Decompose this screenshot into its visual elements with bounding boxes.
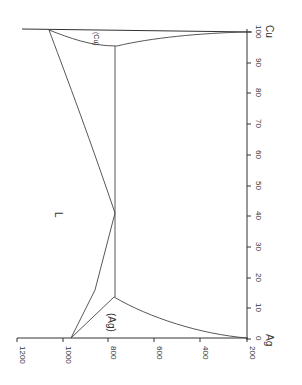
tick-label-90: 90: [254, 58, 263, 67]
tick-label-40: 40: [254, 211, 263, 220]
composition-ticks: [247, 32, 251, 339]
tick-label-0: 0: [254, 336, 263, 341]
cu-solvus-curve: [117, 32, 247, 46]
cu-liquidus-curve: [49, 30, 115, 213]
ag-solvus-curve: [114, 297, 247, 338]
tick-label-60: 60: [254, 150, 263, 159]
tick-label-50: 50: [254, 181, 263, 190]
cu-solidus-curve: [49, 30, 117, 46]
tick-label-20: 20: [254, 273, 263, 282]
region-label-liquid: L: [53, 212, 64, 218]
tick-label-600: 600: [155, 346, 164, 360]
region-label-ag-phase: (Ag): [106, 313, 117, 332]
tick-label-800: 800: [109, 346, 118, 360]
temperature-tick-labels: 1200 1000 800 600 400 200: [18, 346, 257, 364]
axis-label-cu: Cu: [264, 25, 275, 38]
axis-label-ag: Ag: [264, 334, 275, 346]
temperature-ticks: [17, 338, 247, 342]
phase-diagram: 1200 1000 800 600 400 200 0 10 20 30 40 …: [0, 0, 302, 385]
tick-label-70: 70: [254, 119, 263, 128]
tick-label-100: 100: [254, 25, 263, 39]
composition-tick-labels: 0 10 20 30 40 50 60 70 80 90 100: [254, 25, 263, 341]
tick-label-1200: 1200: [18, 346, 27, 364]
tick-label-200: 200: [248, 346, 257, 360]
tick-label-30: 30: [254, 242, 263, 251]
tick-label-10: 10: [254, 303, 263, 312]
region-label-cu-phase: (Cu): [92, 32, 100, 46]
cu-boundary-line: [22, 29, 252, 32]
tick-label-400: 400: [201, 346, 210, 360]
tick-label-1000: 1000: [64, 346, 73, 364]
tick-label-80: 80: [254, 88, 263, 97]
